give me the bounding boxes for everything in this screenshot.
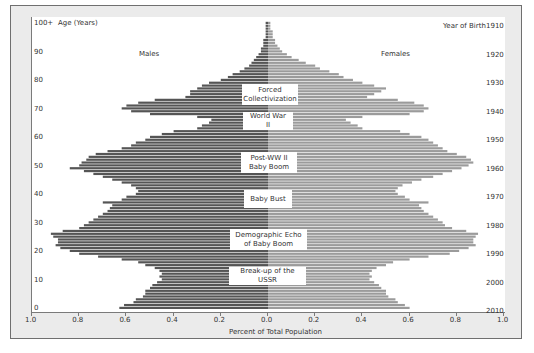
male-bar (263, 42, 268, 44)
female-bar (268, 201, 428, 203)
female-bar (268, 28, 270, 30)
female-bar (268, 264, 386, 266)
male-bar (98, 216, 268, 218)
female-bar (268, 253, 450, 255)
male-bar (70, 250, 268, 252)
x-tick-label: 1.0 (497, 316, 508, 324)
female-bar (268, 156, 466, 158)
x-tick-label: 0.6 (403, 316, 414, 324)
female-bar (268, 30, 273, 32)
annotation-demographic-echo: Demographic Echo of Baby Boom (230, 229, 307, 250)
female-bar (268, 62, 306, 64)
male-bar (259, 53, 268, 55)
female-bar (268, 167, 462, 169)
x-tick-label: 0.0 (261, 316, 272, 324)
female-bar (268, 216, 433, 218)
male-bar (145, 264, 268, 266)
male-bar (136, 298, 268, 300)
male-bar (266, 36, 268, 38)
x-tick-label: 0.2 (214, 316, 225, 324)
male-bar (263, 45, 268, 47)
birth-year-tick-label: 1960 (486, 165, 504, 173)
male-bar (70, 167, 268, 169)
female-bar (268, 181, 412, 183)
birth-axis-title: Year of Birth (443, 22, 486, 30)
male-bar (122, 147, 268, 149)
male-bar (150, 136, 268, 138)
male-bar (122, 258, 268, 260)
annotation-break-up-ussr: Break-up of the USSR (229, 267, 306, 285)
male-bar (266, 25, 268, 27)
female-bar (268, 76, 344, 78)
birth-year-tick-label: 1980 (486, 222, 504, 230)
birth-year-tick-label: 2000 (486, 279, 504, 287)
age-tick-label: 50 (34, 162, 43, 170)
male-bar (89, 221, 268, 223)
male-bar (221, 79, 268, 81)
male-bar (119, 307, 268, 309)
male-bar (103, 176, 268, 178)
female-bar (268, 47, 280, 49)
female-bar (268, 147, 443, 149)
male-bar (251, 62, 268, 64)
male-bar (98, 256, 268, 258)
birth-year-tick-label: 1970 (486, 193, 504, 201)
female-bar (268, 290, 386, 292)
male-bar (233, 73, 268, 75)
age-tick-label: 30 (34, 219, 43, 227)
annotation-post-wwii-baby-boom: Post-WW II Baby Boom (241, 152, 297, 173)
age-tick-label: 20 (34, 247, 43, 255)
x-tick-label: 0.4 (167, 316, 178, 324)
female-bar (268, 65, 315, 67)
female-bar (268, 307, 410, 309)
male-bar (145, 293, 268, 295)
age-tick-label: 70 (34, 105, 43, 113)
female-bar (268, 25, 270, 27)
female-bar (268, 142, 433, 144)
male-bar (138, 261, 268, 263)
age-axis-title: Age (Years) (58, 19, 98, 27)
female-bar (268, 22, 270, 24)
male-bar (240, 70, 268, 72)
birth-year-tick-label: 1910 (486, 22, 504, 30)
male-bar (136, 187, 268, 189)
x-tick-label: 0.8 (450, 316, 461, 324)
male-bar (145, 139, 268, 141)
female-bar (268, 250, 459, 252)
female-bar (268, 293, 386, 295)
male-bar (256, 56, 268, 58)
female-bar (268, 224, 445, 226)
female-bar (268, 161, 473, 163)
age-tick-label: 100+ (34, 19, 53, 27)
male-bar (143, 295, 268, 297)
annotation-text: World War II (247, 112, 289, 130)
male-bar (112, 179, 268, 181)
annotation-forced-collectivization: Forced Collectivization (242, 84, 298, 105)
female-bar (268, 107, 428, 109)
female-bar (268, 39, 275, 41)
birth-year-tick-label: 1950 (486, 136, 504, 144)
male-bar (131, 144, 268, 146)
birth-year-tick-label: 1920 (486, 51, 504, 59)
male-bar (162, 133, 268, 135)
female-bar (268, 53, 287, 55)
female-bar (268, 33, 273, 35)
female-bar (268, 67, 320, 69)
age-tick-label: 0 (34, 304, 38, 312)
female-bar (268, 130, 400, 132)
male-bar (261, 50, 268, 52)
age-tick-label: 90 (34, 48, 43, 56)
female-bar (268, 218, 438, 220)
age-tick-label: 40 (34, 190, 43, 198)
male-bar (108, 210, 268, 212)
age-tick-label: 60 (34, 133, 43, 141)
female-bar (268, 210, 424, 212)
male-bar (174, 130, 268, 132)
male-bar (266, 22, 268, 24)
annotation-text: Demographic Echo (235, 231, 301, 240)
male-bar (266, 30, 268, 32)
annotation-text: Break-up of the USSR (233, 267, 302, 285)
female-bar (268, 258, 410, 260)
female-bar (268, 136, 421, 138)
annotation-baby-bust: Baby Bust (244, 190, 292, 208)
